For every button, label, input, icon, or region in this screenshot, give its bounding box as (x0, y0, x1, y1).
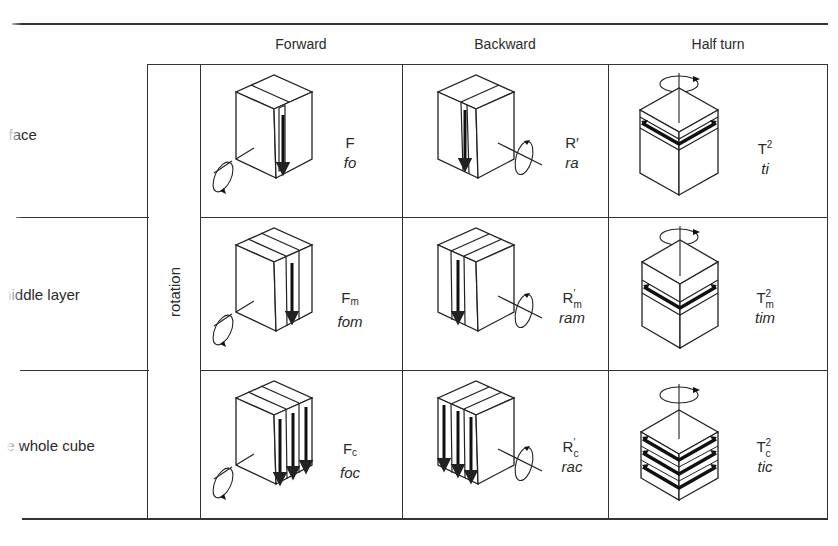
move-symbol: T2 (745, 135, 785, 159)
move-symbol: F (330, 133, 370, 153)
cell-middle-backward: R′m ram (402, 218, 608, 370)
cell-face-halfturn: T2 ti (608, 65, 828, 217)
move-symbol: T2m (745, 288, 785, 308)
symbol-subscript: m (573, 295, 581, 315)
left-edge-shadow (0, 0, 22, 546)
cell-face-forward: F fo (200, 65, 402, 217)
notation-R-prime-c: R′c rac (552, 437, 592, 477)
move-word: foc (330, 463, 370, 483)
move-symbol: Fm (330, 288, 370, 312)
cube-face-forward-icon (200, 65, 402, 217)
symbol-letter: T (756, 289, 765, 306)
move-word: rac (552, 457, 592, 477)
symbol-supsub: 2c (766, 437, 774, 451)
top-rule (12, 23, 828, 25)
symbol-subscript: c (766, 444, 771, 464)
symbol-letter: R (563, 438, 574, 455)
move-word: ram (552, 308, 592, 328)
move-word: ra (552, 153, 592, 173)
notation-T2: T2 ti (745, 135, 785, 179)
symbol-letter: F (343, 440, 352, 457)
notation-R-prime: R′ ra (552, 133, 592, 173)
symbol-letter: T (756, 438, 765, 455)
symbol-supsub: 2m (766, 288, 774, 302)
symbol-supsub: ′m (573, 288, 581, 302)
notation-F: F fo (330, 133, 370, 173)
symbol-prime: ′ (576, 134, 579, 151)
symbol-letter: R (565, 134, 576, 151)
move-symbol: R′c (552, 437, 592, 457)
cell-whole-halfturn: T2c tic (608, 371, 828, 518)
cell-middle-forward: Fm fom (200, 218, 402, 370)
cube-middle-halfturn-icon (608, 218, 828, 370)
move-symbol: R′m (552, 288, 592, 308)
symbol-subscript: c (573, 444, 578, 464)
notation-T2m: T2m tim (745, 288, 785, 328)
move-symbol: Fc (330, 439, 370, 463)
cube-face-halfturn-icon (608, 65, 828, 217)
move-word: fo (330, 153, 370, 173)
symbol-subscript: c (352, 447, 357, 458)
column-header-forward: Forward (200, 36, 402, 52)
cube-whole-forward-icon (200, 371, 402, 518)
cell-whole-forward: Fc foc (200, 371, 402, 518)
cube-middle-forward-icon (200, 218, 402, 370)
symbol-exponent: 2 (767, 139, 773, 150)
cell-middle-halfturn: T2m tim (608, 218, 828, 370)
symbol-letter: T (758, 140, 767, 157)
move-symbol: T2c (745, 437, 785, 457)
move-word: ti (745, 159, 785, 179)
notation-T2c: T2c tic (745, 437, 785, 477)
symbol-supsub: ′c (573, 437, 581, 451)
move-symbol: R′ (552, 133, 592, 153)
symbol-letter: R (563, 289, 574, 306)
rotation-group-label: rotation (166, 267, 183, 317)
cube-whole-halfturn-icon (608, 371, 828, 518)
cell-whole-backward: R′c rac (402, 371, 608, 518)
symbol-subscript: m (766, 295, 774, 315)
notation-Fm: Fm fom (330, 288, 370, 332)
table-bottom-border (22, 518, 828, 520)
cell-face-backward: R′ ra (402, 65, 608, 217)
notation-Fc: Fc foc (330, 439, 370, 483)
notation-R-prime-m: R′m ram (552, 288, 592, 328)
column-header-half-turn: Half turn (608, 36, 828, 52)
symbol-subscript: m (350, 296, 358, 307)
move-word: fom (330, 312, 370, 332)
column-header-backward: Backward (402, 36, 608, 52)
